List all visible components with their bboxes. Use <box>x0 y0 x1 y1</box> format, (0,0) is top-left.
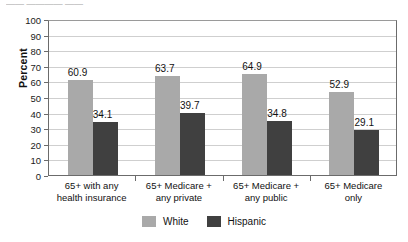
x-category-label-line2: any private <box>135 192 222 204</box>
bar-value-label: 64.9 <box>242 62 262 72</box>
x-category-label: 65+ with anyhealth insurance <box>48 180 135 204</box>
y-tick-label: 20 <box>9 141 41 150</box>
legend-item-hispanic: Hispanic <box>207 216 266 227</box>
bar-chart: —— ———— —— Percent 100908070605040302010… <box>0 0 408 242</box>
y-tick-mark <box>44 176 48 177</box>
legend-swatch-hispanic-icon <box>207 216 221 227</box>
x-category-label-line1: 65+ Medicare <box>310 180 397 192</box>
y-tick-label: 70 <box>9 63 41 72</box>
legend-swatch-white-icon <box>142 216 156 227</box>
bar-value-label: 52.9 <box>329 80 349 90</box>
legend: White Hispanic <box>0 216 408 227</box>
bar-hispanic <box>180 113 205 175</box>
bar-white <box>155 76 180 175</box>
y-tick-label: 60 <box>9 78 41 87</box>
bar-white <box>68 80 93 175</box>
y-tick-label: 90 <box>9 32 41 41</box>
cut-off-title-fragment: —— ———— —— <box>6 0 84 6</box>
legend-label-hispanic: Hispanic <box>228 217 266 227</box>
bar-value-label: 29.1 <box>354 118 374 128</box>
y-tick-label: 80 <box>9 47 41 56</box>
bar-value-label: 34.8 <box>267 109 287 119</box>
y-tick-label: 30 <box>9 125 41 134</box>
gridline <box>49 36 396 37</box>
y-tick-label: 50 <box>9 94 41 103</box>
x-category-label-line1: 65+ with any <box>48 180 135 192</box>
bar-hispanic <box>267 121 292 175</box>
x-category-label-line2: any public <box>223 192 310 204</box>
legend-label-white: White <box>163 217 189 227</box>
plot-area <box>48 20 397 176</box>
bar-hispanic <box>93 122 118 175</box>
x-category-label: 65+ Medicare +any public <box>223 180 310 204</box>
legend-item-white: White <box>142 216 189 227</box>
x-category-label-line1: 65+ Medicare + <box>135 180 222 192</box>
y-tick-label: 0 <box>9 172 41 181</box>
y-tick-label: 100 <box>9 16 41 25</box>
x-category-label: 65+ Medicareonly <box>310 180 397 204</box>
x-category-label: 65+ Medicare +any private <box>135 180 222 204</box>
bar-hispanic <box>354 130 379 175</box>
bar-white <box>242 74 267 175</box>
bar-white <box>329 92 354 175</box>
y-tick-label: 10 <box>9 156 41 165</box>
bar-value-label: 63.7 <box>155 64 175 74</box>
bar-value-label: 39.7 <box>180 101 200 111</box>
x-category-label-line1: 65+ Medicare + <box>223 180 310 192</box>
gridline <box>49 51 396 52</box>
y-tick-label: 40 <box>9 110 41 119</box>
bar-value-label: 34.1 <box>93 110 113 120</box>
bar-value-label: 60.9 <box>68 68 88 78</box>
x-category-label-line2: only <box>310 192 397 204</box>
x-category-label-line2: health insurance <box>48 192 135 204</box>
gridline <box>49 67 396 68</box>
